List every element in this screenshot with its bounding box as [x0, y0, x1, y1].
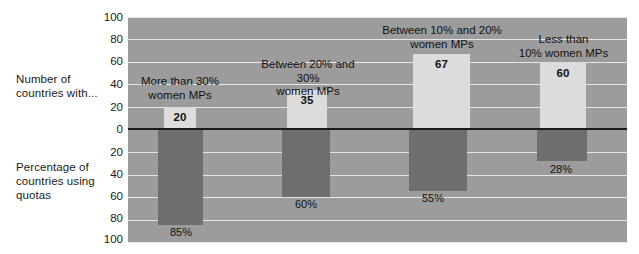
- value-label-count-4: 60: [540, 67, 586, 80]
- value-label-percent-2: 60%: [279, 198, 333, 211]
- value-label-percent-3: 55%: [406, 192, 460, 205]
- y-tick-top-60: 60: [93, 55, 123, 67]
- y-tick-top-80: 80: [93, 33, 123, 45]
- y-tick-bottom-20: 20: [93, 146, 123, 158]
- bar-percent-2: [282, 129, 330, 197]
- y-tick-bottom-40: 40: [93, 168, 123, 180]
- plot-area: More than 30% women MPs 20 85% Between 2…: [128, 17, 627, 243]
- y-tick-top-40: 40: [93, 78, 123, 90]
- y-tick-top-20: 20: [93, 101, 123, 113]
- y-tick-bottom-60: 60: [93, 190, 123, 202]
- bar-percent-3: [409, 129, 467, 191]
- y-tick-bottom-100: 100: [93, 233, 123, 245]
- bar-percent-1: [158, 129, 203, 225]
- category-label-1: More than 30% women MPs: [132, 75, 228, 102]
- chart-figure: Number of countries with... Percentage o…: [0, 0, 639, 254]
- value-label-count-1: 20: [164, 111, 196, 124]
- value-label-percent-1: 85%: [154, 226, 208, 239]
- value-label-count-2: 35: [287, 94, 327, 107]
- category-label-3: Between 10% and 20% women MPs: [378, 24, 506, 51]
- value-label-count-3: 67: [413, 58, 470, 71]
- zero-baseline: [128, 128, 627, 130]
- gridline-bottom-100: [128, 242, 627, 243]
- y-tick-top-100: 100: [93, 11, 123, 23]
- category-label-2: Between 20% and 30% women MPs: [249, 58, 367, 99]
- category-label-4: Less than 10% women MPs: [511, 33, 616, 60]
- y-tick-bottom-80: 80: [93, 212, 123, 224]
- value-label-percent-4: 28%: [534, 163, 588, 176]
- y-tick-zero: 0: [93, 123, 123, 135]
- bar-percent-4: [537, 129, 587, 161]
- gridline-top-100: [128, 17, 627, 18]
